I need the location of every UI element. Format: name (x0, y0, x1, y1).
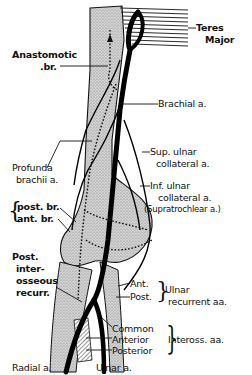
label-anastomotic-1: Anastomotic (12, 49, 77, 60)
label-teres-major-1: Teres (196, 22, 223, 33)
label-ulnar-recurrent-ant: Ant. (130, 278, 148, 289)
label-post-interosseous-2: inter- (16, 263, 44, 274)
label-post-br: post. br. (17, 201, 59, 212)
label-inf-ulnar-3: (Supratrochlear a.) (144, 204, 221, 215)
label-teres-major-2: Major (205, 34, 234, 45)
label-interosseous-group: Inteross. aa. (168, 334, 224, 345)
label-inf-ulnar-2: collateral a. (158, 192, 211, 203)
label-brachial: Brachial a. (158, 98, 206, 109)
label-profunda-2: brachii a. (16, 174, 58, 185)
label-ant-br: ant. br. (17, 213, 54, 224)
label-inf-ulnar-1: Inf. ulnar (150, 180, 190, 191)
label-interosseous-posterior: Posterior (112, 345, 152, 356)
label-post-interosseous-3: osseous (16, 275, 58, 286)
label-profunda-1: Profunda (12, 162, 53, 173)
label-sup-ulnar-2: collateral a. (156, 158, 209, 169)
label-interosseous-common: Common (112, 323, 154, 334)
humerus-bone (61, 6, 153, 266)
label-sup-ulnar-1: Sup. ulnar (150, 146, 197, 157)
label-anastomotic-2: .br. (40, 61, 57, 72)
label-ulnar-recurrent-2: recurrent aa. (168, 296, 227, 307)
label-ulnar-recurrent-post: Post. (130, 291, 152, 302)
label-post-interosseous-4: recurr. (16, 287, 50, 298)
label-radial: Radial a. (12, 362, 51, 373)
arm-artery-diagram: Teres Major Anastomotic .br. Brachial a.… (0, 0, 252, 375)
label-ulnar: Ulnar a. (96, 362, 132, 373)
label-post-interosseous-1: Post. (12, 251, 38, 262)
label-ulnar-recurrent-1: Ulnar (165, 284, 189, 295)
label-interosseous-anterior: Anterior (112, 334, 149, 345)
